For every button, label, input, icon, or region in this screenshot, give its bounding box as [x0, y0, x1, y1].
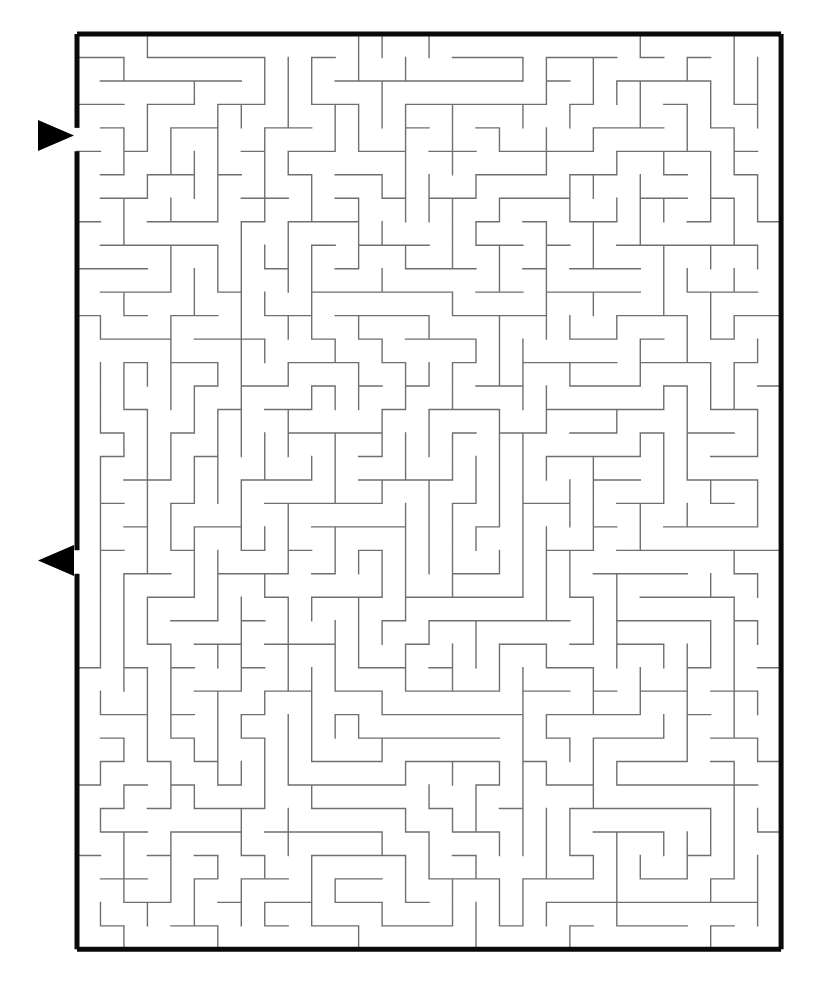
entrance-arrow	[38, 120, 74, 151]
maze-interior-walls	[77, 34, 781, 949]
maze-marker-group	[38, 120, 74, 576]
maze-wall-group	[77, 34, 781, 949]
maze-figure	[0, 0, 822, 981]
maze-canvas	[0, 0, 822, 981]
exit-arrow	[38, 545, 74, 576]
